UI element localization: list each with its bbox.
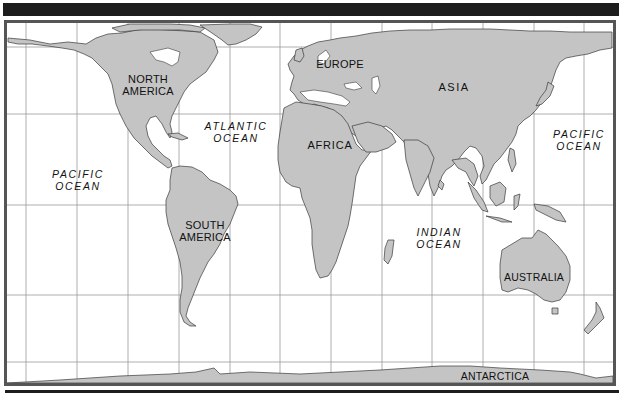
- new-guinea-shape: [534, 204, 566, 222]
- continent-label-north-america: NORTH AMERICA: [113, 73, 183, 97]
- north-america-shape: [8, 29, 218, 168]
- java-shape: [486, 216, 512, 222]
- australia-shape: [500, 230, 570, 302]
- continent-label-europe: EUROPE: [310, 58, 370, 70]
- top-title-bar: [3, 3, 619, 16]
- ocean-label-pacific-west: PACIFIC OCEAN: [43, 168, 113, 192]
- ocean-label-atlantic: ATLANTIC OCEAN: [196, 120, 276, 144]
- world-map: NORTH AMERICA SOUTH AMERICA EUROPE ASIA …: [4, 20, 616, 386]
- ocean-label-pacific-east: PACIFIC OCEAN: [545, 128, 613, 152]
- tasmania-shape: [552, 308, 558, 314]
- continent-label-south-america: SOUTH AMERICA: [175, 219, 235, 243]
- madagascar-shape: [384, 240, 394, 264]
- india-shape: [404, 140, 434, 196]
- indochina-shape: [452, 158, 478, 186]
- continent-label-africa: AFRICA: [300, 139, 360, 151]
- continent-label-antarctica: ANTARCTICA: [455, 370, 535, 382]
- continent-label-australia: AUSTRALIA: [499, 271, 569, 283]
- ocean-label-indian: INDIAN OCEAN: [407, 226, 471, 250]
- sulawesi-shape: [514, 194, 520, 210]
- sumatra-shape: [468, 182, 488, 212]
- cuba-shape: [168, 133, 188, 140]
- continent-label-asia: ASIA: [429, 81, 479, 93]
- philippines-shape: [508, 148, 516, 172]
- borneo-shape: [490, 182, 506, 206]
- bottom-rule: [5, 390, 619, 393]
- map-graphic: [7, 23, 613, 383]
- new-zealand-shape: [584, 302, 604, 334]
- south-america-shape: [166, 166, 238, 326]
